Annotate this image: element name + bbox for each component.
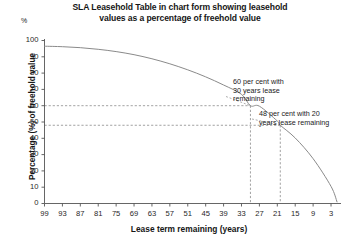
annotation-48-percent: 48 per cent with 20 years lease remainin…	[259, 110, 329, 127]
y-axis-tick-label: 60	[17, 102, 39, 110]
y-axis-tick-label: 70	[17, 85, 39, 93]
y-axis-tick-label: 40	[17, 134, 39, 142]
y-axis-tick-label: 80	[17, 69, 39, 77]
y-axis-tick-label: 100	[17, 36, 39, 44]
y-axis-tick-label: 0	[17, 199, 39, 207]
y-axis-tick-label: 90	[17, 53, 39, 61]
y-axis-tick-label: 10	[17, 183, 39, 191]
y-axis-tick-label: 50	[17, 118, 39, 126]
x-axis-tick-label: 3	[320, 210, 342, 218]
guide-lines-layer	[45, 106, 281, 204]
y-axis-tick-label: 30	[17, 150, 39, 158]
annotation-60-percent: 60 per cent with 30 years lease remainin…	[233, 78, 284, 104]
y-axis-tick-label: 20	[17, 167, 39, 175]
chart-container: SLA Leasehold Table in chart form showin…	[0, 0, 355, 240]
annotation-48-line-2: years lease remaining	[259, 119, 329, 128]
annotation-60-line-3: remaining	[233, 95, 284, 104]
